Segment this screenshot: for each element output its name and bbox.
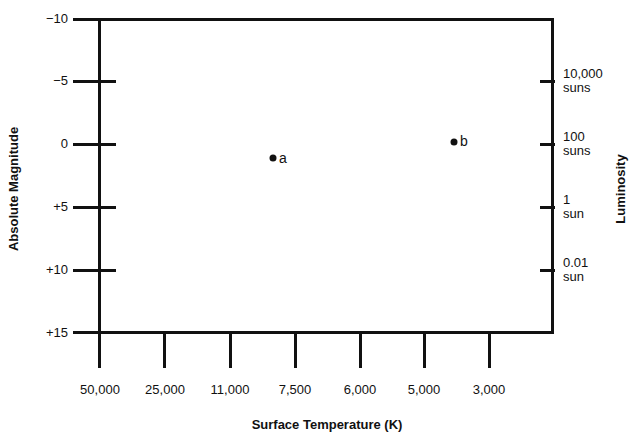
x-tick: [98, 334, 101, 368]
y-axis-title: Absolute Magnitude: [6, 127, 21, 251]
x-tick-label: 50,000: [80, 382, 120, 397]
x-tick: [294, 334, 297, 368]
y-tick: [73, 18, 118, 21]
y-tick-label: −10: [46, 12, 68, 26]
y-tick: [73, 331, 118, 334]
y-axis-line: [98, 18, 101, 368]
y-tick: [73, 269, 116, 272]
y-tick-label: +10: [46, 263, 68, 277]
point-label-b: b: [460, 133, 468, 149]
luminosity-label: 100 suns: [563, 130, 590, 158]
x-tick-label: 5,000: [408, 382, 441, 397]
luminosity-label: 1 sun: [563, 193, 584, 221]
x-axis-title: Surface Temperature (K): [252, 417, 403, 432]
luminosity-tick: [540, 206, 555, 209]
data-point-a: [270, 155, 277, 162]
luminosity-tick: [540, 143, 555, 146]
luminosity-label: 10,000 suns: [563, 67, 603, 95]
x-tick-label: 25,000: [145, 382, 185, 397]
x-tick: [163, 334, 166, 368]
x-tick: [488, 334, 491, 368]
y-tick-label: −5: [53, 74, 68, 88]
y-tick-label: 0: [61, 137, 68, 151]
x-tick-label: 7,500: [279, 382, 312, 397]
x-tick-label: 3,000: [473, 382, 506, 397]
x-tick-label: 6,000: [344, 382, 377, 397]
x-tick-label: 11,000: [211, 382, 250, 397]
point-label-a: a: [279, 150, 287, 166]
x-tick: [423, 334, 426, 368]
luminosity-label: 0.01 sun: [563, 256, 588, 284]
y-tick: [73, 80, 116, 83]
data-point-b: [451, 139, 458, 146]
luminosity-tick: [540, 80, 555, 83]
right-axis-title: Luminosity: [613, 154, 628, 223]
plot-area: [99, 18, 554, 334]
x-tick: [229, 334, 232, 368]
y-tick-label: +5: [53, 200, 68, 214]
y-tick-label: +15: [46, 326, 68, 340]
luminosity-tick: [540, 269, 555, 272]
x-tick: [359, 334, 362, 368]
y-tick: [73, 206, 116, 209]
y-tick: [73, 143, 116, 146]
